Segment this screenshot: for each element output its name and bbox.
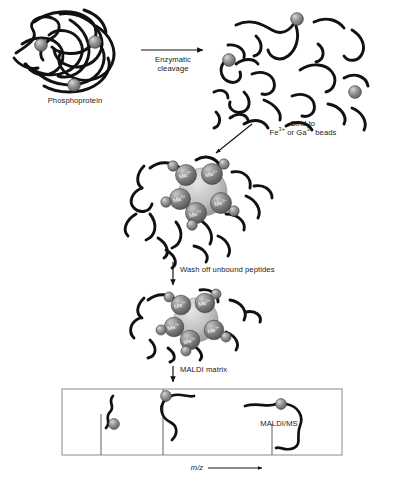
phosphoprotein-label: Phosphoprotein — [20, 96, 130, 105]
enzymatic-cleavage-line1: Enzymatic — [155, 55, 191, 64]
wash-off-label: Wash off unbound peptides — [180, 265, 275, 274]
enzymatic-cleavage-label: Enzymatic cleavage — [132, 55, 214, 74]
maldi-ms-spectrum-panel — [62, 389, 342, 468]
phosphate-group-sphere — [161, 391, 172, 402]
cleaved-peptides-illustration — [214, 19, 368, 130]
phosphate-group-sphere — [276, 399, 287, 410]
enzymatic-cleavage-line2: cleavage — [157, 64, 188, 73]
maldi-ms-label: MALDI/MS — [240, 419, 318, 428]
phosphate-group-sphere — [109, 419, 120, 430]
phosphoprotein-illustration — [14, 10, 114, 92]
imac-bead-with-metal-ions: Me3+ Me3+ Me3+ Me3+ Me3+ — [161, 159, 239, 230]
maldi-matrix-label: MALDI matrix — [180, 365, 227, 374]
mz-axis-label: m/z — [186, 463, 208, 472]
imac-bead-with-metal-ions: Me3+ Me3+ Me3+ Me3+ Me3+ — [156, 289, 231, 356]
bind-to-beads-line2: Fe3+ or Ga3+ beads — [270, 128, 337, 137]
bind-to-beads-label: Bind to Fe3+ or Ga3+ beads — [255, 119, 351, 138]
arrow-bind-to-beads — [216, 124, 252, 153]
